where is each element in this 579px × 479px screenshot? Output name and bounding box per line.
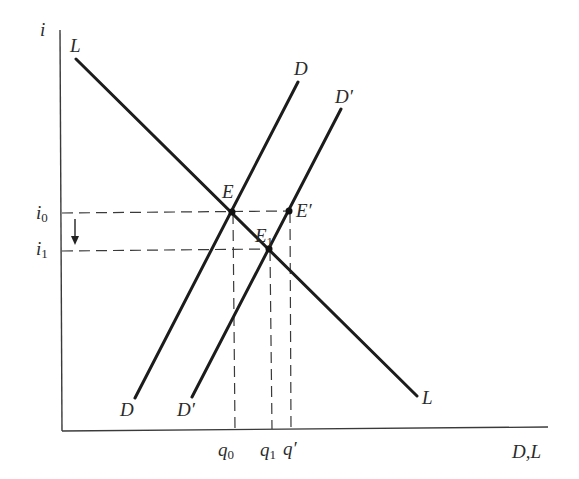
point-E1-label: E1 [254, 225, 273, 249]
x-tick-q-prime: q′ [283, 438, 298, 459]
q0-guide-line [233, 213, 235, 430]
curve-L-label-top: L [69, 35, 81, 56]
x-tick-q0: q0 [218, 439, 234, 462]
i0-guide-line [62, 211, 288, 213]
y-tick-i1: i1 [36, 238, 48, 261]
y-tick-i0: i0 [36, 202, 48, 225]
q-prime-guide-line [290, 212, 291, 429]
q1-guide-line [270, 250, 272, 429]
curve-L [76, 59, 417, 396]
y-axis [60, 30, 62, 431]
curve-D-prime-label-bottom: D′ [176, 399, 196, 420]
curve-D-prime-label-top: D′ [334, 86, 354, 107]
point-E-prime [286, 208, 293, 215]
down-arrow-icon [71, 219, 79, 245]
x-axis-label: D,L [511, 441, 541, 462]
x-tick-q1: q1 [260, 439, 276, 462]
supply-demand-diagram: i D,L L L D D D′ D′ E E′ E1 i0 i1 q0 q1 … [0, 0, 579, 479]
point-E-label: E [221, 181, 234, 202]
curve-D-label-bottom: D [119, 399, 134, 420]
curve-D-label-top: D [293, 58, 308, 79]
curve-L-label-bottom: L [421, 387, 433, 408]
x-axis [62, 427, 548, 431]
y-axis-label: i [40, 19, 45, 40]
i1-guide-line [62, 249, 268, 251]
point-E [229, 209, 236, 216]
curve-D-prime [192, 109, 341, 397]
point-E-prime-label: E′ [295, 200, 313, 221]
